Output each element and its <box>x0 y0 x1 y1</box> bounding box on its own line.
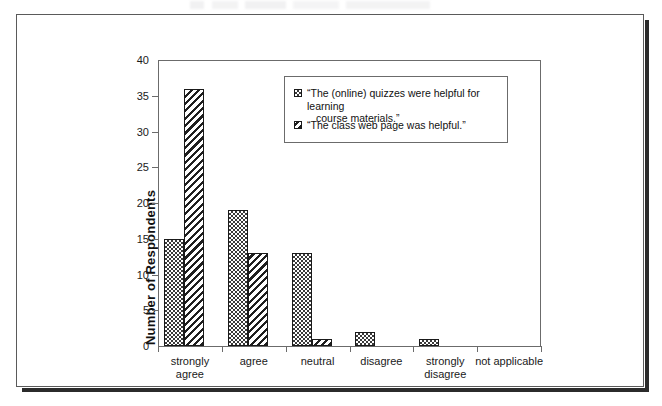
page-shadow-right <box>645 20 649 392</box>
y-axis-tick <box>152 275 158 276</box>
y-axis-tick-label: 10 <box>49 270 149 280</box>
bar <box>312 339 332 346</box>
bar <box>292 253 312 346</box>
x-axis-category-label-line2: agree <box>176 368 204 380</box>
y-axis-labels: 4035302520151050 <box>17 15 149 388</box>
y-axis-tick <box>152 132 158 133</box>
legend-swatch-dotted-icon <box>294 89 302 97</box>
x-axis-category-label-line1: strongly <box>426 355 465 367</box>
x-axis-category-label-line1: agree <box>240 355 268 367</box>
x-axis-category-label-line1: disagree <box>360 355 402 367</box>
y-axis-tick-label: 35 <box>49 91 149 101</box>
y-axis-tick <box>152 310 158 311</box>
x-axis-category-label-line1: not applicable <box>475 355 543 367</box>
bar-chart: Number of Respondents 4035302520151050 s… <box>17 15 645 388</box>
x-axis-category-label-line1: strongly <box>171 355 210 367</box>
bar <box>164 239 184 346</box>
scan-artifact-text <box>190 1 430 9</box>
y-axis-tick-label: 15 <box>49 234 149 244</box>
bar <box>355 332 375 346</box>
y-axis-tick <box>152 203 158 204</box>
y-axis-tick-label: 30 <box>49 127 149 137</box>
bar <box>228 210 248 346</box>
y-axis-tick <box>152 167 158 168</box>
y-axis-tick <box>152 96 158 97</box>
x-axis-tick <box>286 347 287 352</box>
bar <box>248 253 268 346</box>
y-axis-tick-label: 25 <box>49 162 149 172</box>
x-axis-tick <box>413 347 414 352</box>
x-axis-tick <box>541 347 542 352</box>
legend-item-label: “The class web page was helpful.” <box>307 119 466 132</box>
x-axis-tick <box>222 347 223 352</box>
x-axis-tick <box>158 347 159 352</box>
y-axis-tick-label: 40 <box>49 55 149 65</box>
legend-item-label-line1: “The (online) quizzes were helpful for l… <box>307 87 480 112</box>
bar <box>184 89 204 346</box>
y-axis-tick-label: 5 <box>49 305 149 315</box>
y-axis-tick <box>152 239 158 240</box>
scanned-page-frame: Number of Respondents 4035302520151050 s… <box>16 14 644 387</box>
x-axis-tick <box>477 347 478 352</box>
x-axis-category-label: not applicable <box>467 355 551 368</box>
legend-swatch-hatch-icon <box>294 121 302 129</box>
chart-legend: “The (online) quizzes were helpful for l… <box>284 76 508 143</box>
y-axis-tick-label: 20 <box>49 198 149 208</box>
bar <box>419 339 439 346</box>
x-axis-category-label-line1: neutral <box>301 355 335 367</box>
x-axis-category-label-line2: disagree <box>424 368 466 380</box>
y-axis-tick-label: 0 <box>49 341 149 351</box>
x-axis-tick <box>350 347 351 352</box>
page-shadow-bottom <box>22 388 649 392</box>
legend-item: “The class web page was helpful.” <box>294 119 466 132</box>
